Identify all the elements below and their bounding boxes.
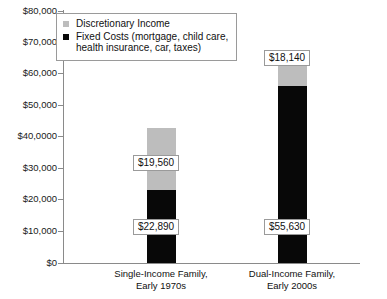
x-category-label-single-income: Single-Income Family, Early 1970s [86, 268, 236, 292]
y-tick-label-70000: $70,000 [0, 37, 57, 47]
y-tick-label-10000: $10,000 [0, 226, 57, 236]
value-label-dual-discretionary: $18,140 [264, 50, 310, 66]
y-tick-mark-40000 [58, 136, 63, 137]
y-tick-label-40000: $40,0000 [0, 131, 57, 141]
value-label-dual-fixed: $55,630 [264, 219, 310, 235]
y-tick-mark-20000 [58, 199, 63, 200]
y-tick-label-20000: $20,000 [0, 194, 57, 204]
legend-swatch-icon [63, 34, 69, 40]
chart-legend: Discretionary Income Fixed Costs (mortga… [56, 13, 237, 61]
y-tick-mark-30000 [58, 168, 63, 169]
value-label-single-discretionary: $19,560 [133, 155, 179, 171]
y-tick-label-30000: $30,000 [0, 163, 57, 173]
y-tick-mark-60000 [58, 73, 63, 74]
y-tick-label-50000: $50,000 [0, 100, 57, 110]
y-tick-mark-10000 [58, 231, 63, 232]
y-tick-mark-0 [58, 263, 63, 264]
y-tick-label-0: $0 [0, 258, 57, 268]
legend-swatch-icon [63, 21, 69, 27]
y-tick-label-60000: $60,000 [0, 68, 57, 78]
legend-label: Discretionary Income [76, 18, 170, 30]
x-axis-line [63, 263, 360, 264]
y-tick-label-80000: $80,000 [0, 6, 57, 16]
bar-segment-fixed-costs [278, 86, 307, 263]
legend-item-discretionary-income: Discretionary Income [63, 18, 228, 30]
x-category-label-dual-income: Dual-Income Family, Early 2000s [217, 268, 367, 292]
stacked-bar-chart: $80,000 $70,000 $60,000 $50,000 $40,0000… [0, 0, 387, 299]
y-tick-mark-50000 [58, 105, 63, 106]
y-tick-mark-80000 [58, 11, 63, 12]
value-label-single-fixed: $22,890 [133, 219, 179, 235]
legend-item-fixed-costs: Fixed Costs (mortgage, child care, healt… [63, 31, 228, 54]
legend-label: Fixed Costs (mortgage, child care, healt… [76, 31, 228, 54]
